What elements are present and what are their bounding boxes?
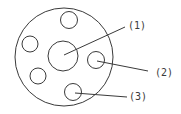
center-hole — [48, 41, 78, 71]
callout-label-1: (1) — [128, 20, 146, 31]
leader-line-1 — [64, 27, 125, 55]
hole-left — [22, 36, 38, 52]
hole-top — [61, 12, 78, 29]
leader-line-2 — [97, 61, 148, 71]
disc-callout-diagram: (1) (2) (3) — [0, 0, 181, 114]
callout-label-3: (3) — [129, 91, 147, 102]
callout-label-2: (2) — [155, 67, 173, 78]
outer-disc — [15, 8, 113, 106]
hole-lower-left — [30, 68, 46, 84]
hole-right — [88, 52, 105, 69]
leader-line-3 — [75, 93, 127, 97]
hole-bottom — [65, 84, 82, 101]
